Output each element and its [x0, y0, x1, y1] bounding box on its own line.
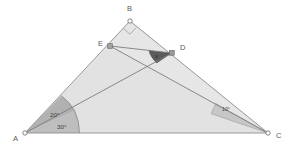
vertex-dot-B: [128, 19, 132, 23]
vertex-dot-C: [266, 131, 270, 135]
vertex-dot-D: [170, 51, 175, 56]
angle-label-A-lower: 30°: [57, 123, 67, 130]
vertex-dot-A: [23, 131, 27, 135]
angle-label-D-x: x: [155, 53, 158, 59]
geometry-canvas: A B C D E 20° 30° 10° x: [0, 0, 294, 153]
angle-label-A-upper: 20°: [50, 111, 60, 118]
vertex-label-B: B: [127, 4, 132, 13]
vertex-label-E: E: [98, 39, 103, 48]
vertex-dot-E: [108, 44, 113, 49]
vertex-label-A: A: [13, 134, 18, 143]
geometry-figure: A B C D E 20° 30° 10° x: [0, 0, 294, 153]
vertex-label-D: D: [180, 43, 186, 52]
angle-label-C: 10°: [222, 106, 230, 112]
vertex-label-C: C: [276, 131, 282, 140]
